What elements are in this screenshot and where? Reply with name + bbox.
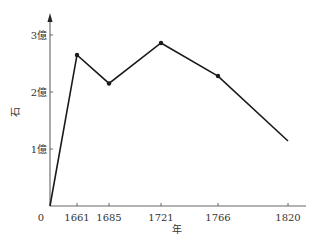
y-tick-label: 3億 [31, 29, 47, 41]
axes [48, 13, 307, 206]
y-axis-arrow-icon [48, 13, 53, 22]
data-point-marker [159, 41, 163, 45]
y-axis-label: 石 [10, 107, 21, 117]
data-point-marker [75, 53, 79, 57]
y-tick-label: 1億 [31, 143, 47, 155]
x-axis-label: 年 [172, 223, 182, 235]
x-tick-label: 1685 [96, 212, 121, 223]
y-tick-label: 2億 [31, 86, 47, 98]
x-tick-label: 1661 [64, 212, 89, 223]
line-chart: 1億2億3億 16611685172117661820 0 年 石 [0, 0, 323, 246]
data-point-marker [216, 74, 220, 78]
x-tick-label: 1721 [148, 212, 173, 223]
data-markers [75, 41, 220, 86]
x-tick-label: 1766 [205, 212, 230, 223]
series-line [50, 43, 288, 206]
data-point-marker [107, 81, 111, 85]
x-tick-label: 1820 [275, 212, 300, 223]
origin-label: 0 [38, 212, 44, 223]
